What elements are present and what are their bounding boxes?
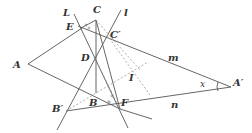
label-line-L: L <box>62 7 70 18</box>
label-A: A <box>12 59 21 70</box>
segment-F-ext <box>120 109 152 119</box>
label-D: D <box>80 52 90 63</box>
segment-A-F <box>28 64 120 109</box>
label-A-prime: A′ <box>232 77 244 88</box>
dashed-Bprime-I <box>66 62 148 111</box>
label-C: C <box>93 4 101 15</box>
label-I: I <box>128 72 134 83</box>
angle-x-arc <box>217 82 218 91</box>
label-F: F <box>120 97 129 108</box>
line-m <box>78 26 231 87</box>
geometry-diagram: A A′ C C′ E D B F B′ I L l m n x <box>0 0 252 133</box>
label-B-prime: B′ <box>51 103 63 114</box>
label-B: B <box>88 97 97 108</box>
segment-A-E <box>28 28 82 64</box>
label-line-l: l <box>124 7 128 18</box>
angle-marker-F2 <box>108 101 110 103</box>
label-angle-x: x <box>200 79 205 89</box>
label-E: E <box>65 21 74 32</box>
label-C-prime: C′ <box>110 29 121 40</box>
label-line-n: n <box>171 99 178 110</box>
label-line-m: m <box>168 52 179 63</box>
dashed-D-F <box>95 58 120 109</box>
segment-E-C <box>81 20 96 28</box>
angle-marker-E2 <box>88 27 90 29</box>
